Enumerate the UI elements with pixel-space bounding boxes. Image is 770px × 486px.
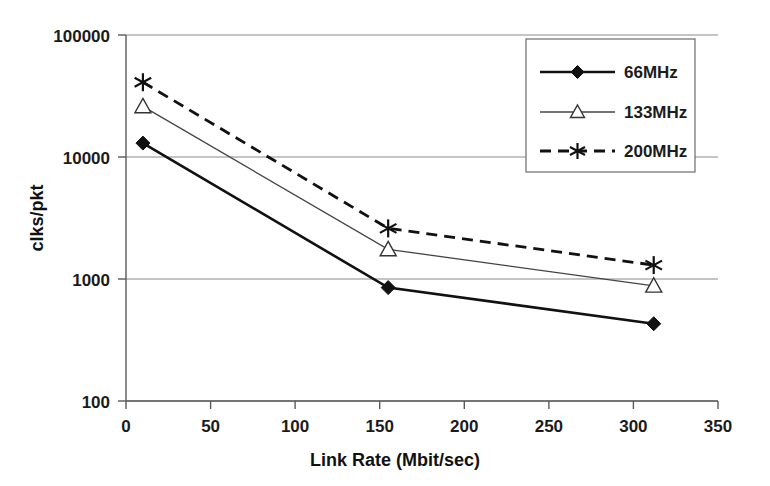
chart-container: 100000 10000 1000 100 0 50 100 150 200 2… <box>0 0 770 486</box>
y-axis-title: clks/pkt <box>27 184 47 251</box>
line-chart: 100000 10000 1000 100 0 50 100 150 200 2… <box>0 0 770 486</box>
x-tick-label-350: 350 <box>704 417 732 436</box>
x-tick-label-50: 50 <box>201 417 220 436</box>
legend: 66MHz 133MHz 200MHz <box>526 39 695 172</box>
x-axis-title: Link Rate (Mbit/sec) <box>310 450 480 470</box>
datapoint-diamond-icon <box>381 281 395 295</box>
datapoint-triangle-icon <box>135 98 151 112</box>
legend-label-133mhz: 133MHz <box>624 103 687 122</box>
legend-label-66mhz: 66MHz <box>624 63 678 82</box>
y-tick-labels: 100000 10000 1000 100 <box>53 27 110 412</box>
y-tick-label-100: 100 <box>82 393 110 412</box>
x-tick-labels: 0 50 100 150 200 250 300 350 <box>121 417 732 436</box>
y-tick-label-100000: 100000 <box>53 27 110 46</box>
y-tick-label-1000: 1000 <box>72 271 110 290</box>
datapoint-asterisk-icon <box>135 73 152 91</box>
datapoint-triangle-icon <box>380 241 396 255</box>
legend-label-200mhz: 200MHz <box>624 142 687 161</box>
x-tick-label-200: 200 <box>450 417 478 436</box>
x-tick-label-0: 0 <box>121 417 130 436</box>
datapoint-diamond-icon <box>647 317 661 331</box>
x-tick-label-150: 150 <box>366 417 394 436</box>
x-tick-label-100: 100 <box>281 417 309 436</box>
x-tick-label-300: 300 <box>619 417 647 436</box>
datapoint-diamond-icon <box>136 136 150 150</box>
y-tick-label-10000: 10000 <box>63 149 110 168</box>
x-tick-label-250: 250 <box>535 417 563 436</box>
